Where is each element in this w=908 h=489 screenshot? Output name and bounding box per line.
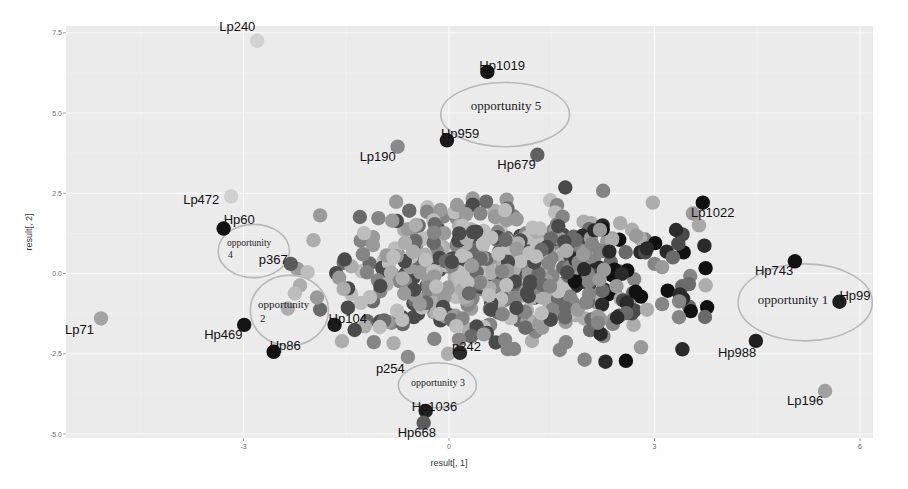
data-point	[386, 250, 400, 264]
data-point	[338, 252, 352, 266]
data-point	[698, 310, 712, 324]
data-point	[559, 335, 573, 349]
data-point	[523, 277, 537, 291]
data-point	[602, 244, 616, 258]
data-point	[558, 310, 572, 324]
data-point	[533, 221, 547, 235]
data-point	[313, 208, 327, 222]
data-point	[634, 340, 648, 354]
data-point	[655, 260, 669, 274]
point-label-hp1036: Hp1036	[412, 399, 458, 414]
point-label-hp959: Hp959	[441, 126, 479, 141]
point-label-hp668: Hp668	[398, 425, 436, 440]
data-point	[697, 239, 711, 253]
opportunity-2-label-line2: 2	[260, 312, 266, 324]
data-point	[579, 295, 593, 309]
data-point	[389, 195, 403, 209]
data-point	[445, 255, 459, 269]
data-point	[498, 233, 512, 247]
y-tick-label: -5.0	[50, 431, 62, 438]
x-axis-title: result[, 1]	[430, 458, 467, 468]
data-point	[402, 204, 416, 218]
data-point	[666, 250, 680, 264]
data-point	[390, 304, 404, 318]
y-tick-label: 5.0	[52, 110, 62, 117]
data-point	[629, 229, 643, 243]
y-tick-label: 7.5	[52, 29, 62, 36]
data-point	[640, 303, 654, 317]
data-point	[462, 286, 476, 300]
data-point	[357, 226, 371, 240]
data-point	[360, 265, 374, 279]
data-point	[367, 335, 381, 349]
point-label-p254: p254	[376, 361, 405, 376]
data-point	[373, 279, 387, 293]
labeled-point-lp71	[94, 311, 108, 325]
data-point	[450, 198, 464, 212]
data-point	[499, 278, 513, 292]
data-point	[610, 310, 624, 324]
data-point	[335, 334, 349, 348]
data-point	[371, 211, 385, 225]
opportunity-1-label: opportunity 1	[758, 292, 828, 307]
opportunity-3-label: opportunity 3	[411, 377, 465, 388]
y-tick-label: -2.5	[50, 350, 62, 357]
data-point	[491, 247, 505, 261]
point-label-p367: p367	[259, 252, 288, 267]
point-label-hp743: Hp743	[755, 263, 793, 278]
data-point	[560, 265, 574, 279]
data-point	[671, 237, 685, 251]
data-point	[518, 321, 532, 335]
y-tick-label: 2.5	[52, 190, 62, 197]
data-point	[669, 223, 683, 237]
data-point	[373, 320, 387, 334]
x-tick-label: 6	[858, 443, 862, 450]
data-point	[398, 236, 412, 250]
data-point	[498, 333, 512, 347]
labeled-point-lp472	[224, 189, 238, 203]
point-label-lp71: Lp71	[65, 322, 94, 337]
data-point	[619, 354, 633, 368]
data-point	[609, 279, 623, 293]
data-point	[577, 262, 591, 276]
y-axis: -5.0-2.50.02.55.07.5	[50, 29, 66, 437]
data-point	[429, 279, 443, 293]
data-point	[310, 290, 324, 304]
scatter-chart: Lp240Hp1019Hp959Lp190Hp679Lp472Hp60p367L…	[0, 0, 908, 489]
data-point	[655, 297, 669, 311]
data-point	[559, 244, 573, 258]
data-point	[529, 249, 543, 263]
data-point	[353, 210, 367, 224]
data-point	[577, 353, 591, 367]
x-tick-label: 0	[447, 443, 451, 450]
x-tick-label: 3	[653, 443, 657, 450]
data-point	[593, 223, 607, 237]
data-point	[449, 319, 463, 333]
data-point	[592, 272, 606, 286]
data-point	[473, 275, 487, 289]
data-point	[699, 278, 713, 292]
point-label-hp86: Hp86	[270, 338, 301, 353]
data-point	[476, 237, 490, 251]
y-axis-title: result[, 2]	[24, 213, 34, 250]
opportunity-5-label: opportunity 5	[471, 98, 541, 113]
data-point	[306, 233, 320, 247]
data-point	[452, 226, 466, 240]
point-label-lp472: Lp472	[183, 192, 219, 207]
opportunity-4-label-line1: opportunity	[227, 238, 272, 248]
data-point	[385, 214, 399, 228]
x-tick-label: -3	[240, 443, 246, 450]
point-label-hp104: Hp104	[329, 311, 367, 326]
data-point	[498, 203, 512, 217]
data-point	[465, 259, 479, 273]
point-label-lp1022: Lp1022	[691, 205, 734, 220]
point-label-lp240: Lp240	[219, 19, 255, 34]
data-point	[598, 355, 612, 369]
data-point	[313, 302, 327, 316]
point-label-hp679: Hp679	[497, 157, 535, 172]
data-point	[576, 247, 590, 261]
data-point	[542, 256, 556, 270]
data-point	[640, 241, 654, 255]
data-point	[495, 307, 509, 321]
data-point	[509, 301, 523, 315]
